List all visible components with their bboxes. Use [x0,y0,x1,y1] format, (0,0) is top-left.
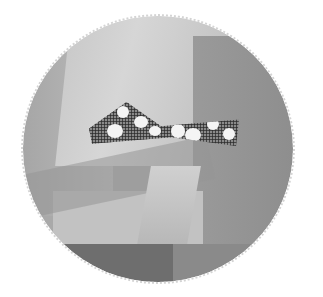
polka-dot [107,124,123,138]
polka-dot [117,106,129,118]
polka-dot [134,116,148,128]
circular-photo [23,16,293,282]
dark-box-base [63,244,173,282]
polka-dot [223,128,235,140]
polka-dot [149,126,161,136]
box-side [173,244,253,282]
polka-dot [171,124,185,138]
